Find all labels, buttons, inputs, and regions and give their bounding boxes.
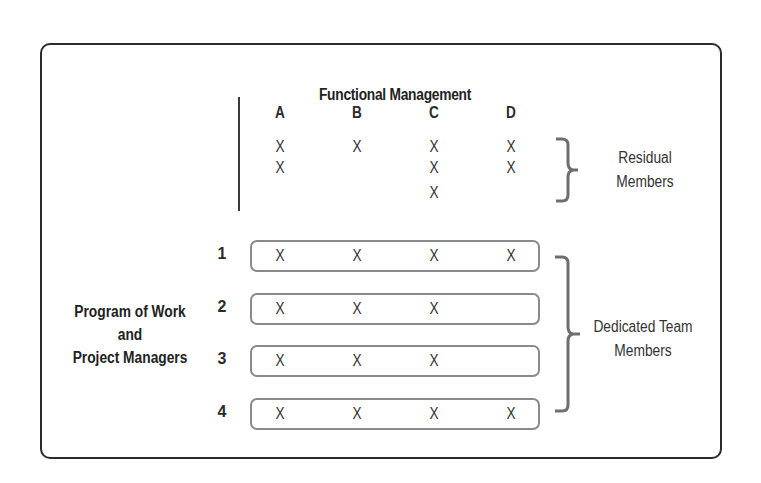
column-header-c: C — [421, 104, 447, 122]
project-number-3: 3 — [210, 350, 234, 368]
project-1-mark-b: X — [345, 246, 369, 266]
project-number-1: 1 — [210, 245, 234, 263]
project-box-1 — [250, 240, 540, 272]
dedicated-team-members-label: Dedicated Team Members — [591, 315, 694, 363]
residual-label-line2: Members — [606, 170, 683, 194]
project-2-mark-a: X — [268, 299, 292, 319]
project-number-4: 4 — [210, 403, 234, 421]
dedicated-label-line2: Members — [591, 339, 694, 363]
project-1-mark-d: X — [499, 246, 523, 266]
project-box-3 — [250, 345, 540, 377]
project-3-mark-c: X — [422, 351, 446, 371]
project-2-mark-b: X — [345, 299, 369, 319]
residual-label-line1: Residual — [606, 146, 683, 170]
project-1-mark-c: X — [422, 246, 446, 266]
project-box-4 — [250, 398, 540, 430]
column-header-a: A — [267, 104, 293, 122]
residual-mark-a-2: X — [268, 158, 292, 178]
project-4-mark-a: X — [268, 404, 292, 424]
program-label-line1: Program of Work — [61, 300, 199, 323]
residual-brace-icon — [548, 136, 588, 206]
column-header-d: D — [498, 104, 524, 122]
residual-mark-b-1: X — [345, 137, 369, 157]
residual-mark-d-1: X — [499, 137, 523, 157]
residual-mark-c-2: X — [422, 158, 446, 178]
residual-mark-d-2: X — [499, 158, 523, 178]
project-number-2: 2 — [210, 298, 234, 316]
residual-mark-c-1: X — [422, 137, 446, 157]
column-header-b: B — [344, 104, 370, 122]
functional-management-title: Functional Management — [270, 86, 519, 104]
project-2-mark-c: X — [422, 299, 446, 319]
program-of-work-label: Program of Work and Project Managers — [61, 300, 199, 369]
project-1-mark-a: X — [268, 246, 292, 266]
program-label-line3: Project Managers — [61, 346, 199, 369]
residual-mark-a-1: X — [268, 137, 292, 157]
dedicated-brace-icon — [553, 254, 593, 419]
project-3-mark-b: X — [345, 351, 369, 371]
functional-divider-line — [238, 97, 240, 211]
program-label-line2: and — [61, 323, 199, 346]
residual-mark-c-3: X — [422, 183, 446, 203]
dedicated-label-line1: Dedicated Team — [591, 315, 694, 339]
residual-members-label: Residual Members — [606, 146, 683, 194]
project-box-2 — [250, 293, 540, 325]
project-4-mark-b: X — [345, 404, 369, 424]
project-4-mark-d: X — [499, 404, 523, 424]
project-4-mark-c: X — [422, 404, 446, 424]
project-3-mark-a: X — [268, 351, 292, 371]
